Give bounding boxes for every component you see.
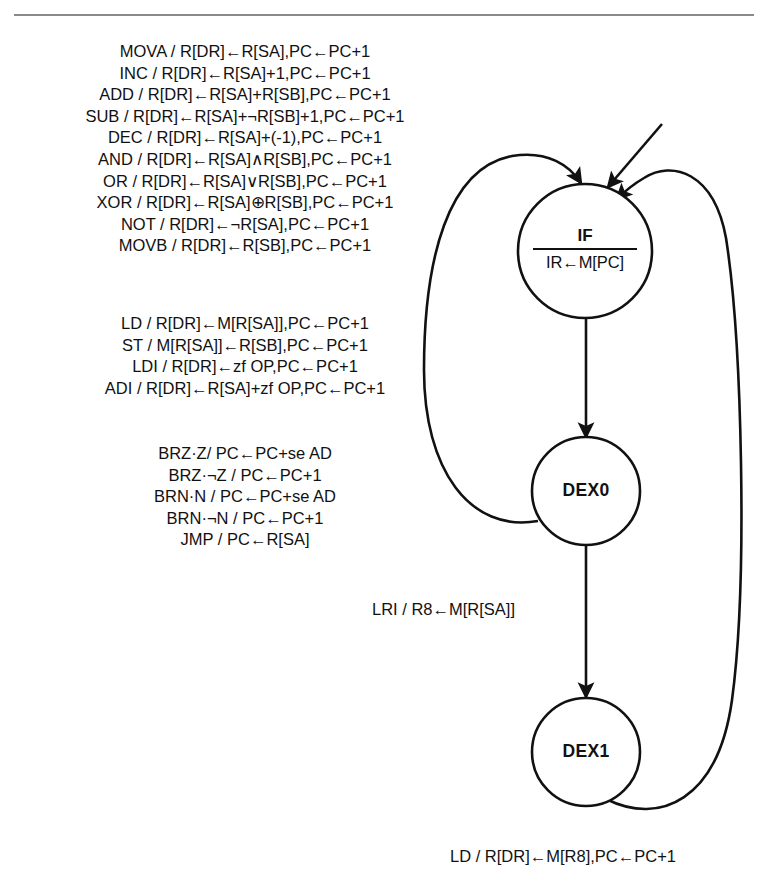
instruction-line: INC / R[DR]←R[SA]+1,PC←PC+1 [0,63,490,85]
start-arrow-into-if [608,124,662,187]
instruction-line: ST / M[R[SA]]←R[SB],PC←PC+1 [0,335,490,357]
state-label-if-bottom: IR←M[PC] [518,252,652,272]
instruction-line: MOVB / R[DR]←R[SB],PC←PC+1 [0,235,490,257]
instruction-block-branch: BRZ·Z/ PC←PC+se ADBRZ·¬Z / PC←PC+1BRN·N … [0,443,490,551]
instruction-block-alu: MOVA / R[DR]←R[SA],PC←PC+1INC / R[DR]←R[… [0,41,490,257]
instruction-line: LD / R[DR]←M[R[SA]],PC←PC+1 [0,313,490,335]
state-label-if-top: IF [518,226,652,247]
instruction-line: DEC / R[DR]←R[SA]+(-1),PC←PC+1 [0,127,490,149]
edge-label-ld-r8: LD / R[DR]←M[R8],PC←PC+1 [450,847,676,866]
state-label-if: IF IR←M[PC] [518,226,652,272]
instruction-block-memory: LD / R[DR]←M[R[SA]],PC←PC+1ST / M[R[SA]]… [0,313,490,399]
instruction-line: LDI / R[DR]←zf OP,PC←PC+1 [0,356,490,378]
instruction-line: ADI / R[DR]←R[SA]+zf OP,PC←PC+1 [0,378,490,400]
state-label-if-divider [533,248,637,250]
instruction-line: MOVA / R[DR]←R[SA],PC←PC+1 [0,41,490,63]
instruction-line: BRZ·Z/ PC←PC+se AD [0,443,490,465]
instruction-line: BRN·N / PC←PC+se AD [0,486,490,508]
instruction-line: BRN·¬N / PC←PC+1 [0,508,490,530]
instruction-line: NOT / R[DR]←¬R[SA],PC←PC+1 [0,214,490,236]
instruction-line: SUB / R[DR]←R[SA]+¬R[SB]+1,PC←PC+1 [0,106,490,128]
instruction-line: OR / R[DR]←R[SA]∨R[SB],PC←PC+1 [0,171,490,193]
instruction-line: XOR / R[DR]←R[SA]⊕R[SB],PC←PC+1 [0,192,490,214]
state-label-dex0: DEX0 [532,480,640,501]
state-label-dex1: DEX1 [532,741,640,762]
instruction-line: BRZ·¬Z / PC←PC+1 [0,465,490,487]
instruction-line: ADD / R[DR]←R[SA]+R[SB],PC←PC+1 [0,84,490,106]
instruction-line: JMP / PC←R[SA] [0,529,490,551]
diagram-page: IF IR←M[PC] DEX0 DEX1 LRI / R8←M[R[SA]] … [0,0,766,891]
instruction-line: AND / R[DR]←R[SA]∧R[SB],PC←PC+1 [0,149,490,171]
edge-label-lri: LRI / R8←M[R[SA]] [372,600,515,619]
